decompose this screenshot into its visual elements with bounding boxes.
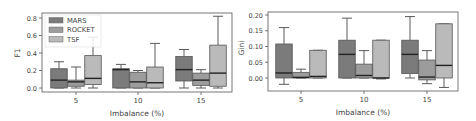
- x-tick-label: 10: [134, 97, 143, 105]
- box-mars-10: [113, 64, 130, 88]
- legend-label-tsf: TSF: [66, 36, 79, 44]
- legend-swatch-mars: [49, 18, 63, 24]
- box-iqr: [402, 40, 419, 73]
- box-iqr: [147, 67, 164, 88]
- y-axis-label: F1: [13, 48, 22, 57]
- box-iqr: [373, 40, 390, 78]
- box-iqr: [113, 69, 130, 88]
- x-axis-label: Imbalance (%): [110, 109, 164, 118]
- y-tick-label: 0.15: [249, 27, 263, 35]
- box-iqr: [436, 24, 453, 78]
- x-tick-label: 5: [74, 97, 78, 105]
- y-tick-label: 0.10: [249, 43, 263, 51]
- box-rocket-15: [193, 70, 210, 88]
- box-rocket-10: [130, 71, 147, 89]
- x-tick-label: 15: [423, 96, 432, 104]
- box-iqr: [130, 72, 147, 88]
- box-iqr: [51, 69, 68, 88]
- box-iqr: [339, 40, 356, 78]
- y-tick-label: 0.05: [249, 59, 263, 67]
- box-tsf-5: [310, 50, 327, 78]
- legend: MARSROCKETTSF: [45, 15, 101, 47]
- box-tsf-10: [373, 40, 390, 79]
- y-tick-label: 0.00: [249, 75, 263, 83]
- box-rocket-15: [419, 51, 436, 84]
- box-tsf-10: [147, 43, 164, 88]
- chart-panel-gini: 0.000.050.100.150.2051015Imbalance (%)Gi…: [237, 12, 458, 118]
- box-mars-15: [402, 17, 419, 78]
- x-axis-label: Imbalance (%): [336, 108, 390, 117]
- chart-panel-f1: 0.00.20.40.60.851015Imbalance (%)F1MARSR…: [13, 13, 232, 118]
- box-iqr: [210, 45, 227, 86]
- box-tsf-15: [436, 24, 453, 88]
- box-mars-15: [176, 50, 193, 89]
- box-rocket-10: [356, 51, 373, 78]
- legend-label-rocket: ROCKET: [67, 26, 96, 34]
- legend-label-mars: MARS: [67, 17, 87, 25]
- legend-swatch-rocket: [49, 27, 63, 33]
- box-iqr: [193, 73, 210, 85]
- box-iqr: [85, 56, 102, 85]
- y-tick-label: 0.20: [249, 12, 263, 20]
- y-tick-label: 0.2: [27, 67, 37, 75]
- legend-swatch-tsf: [49, 37, 63, 43]
- box-iqr: [68, 80, 85, 86]
- box-rocket-5: [68, 67, 85, 88]
- figure: 0.00.20.40.60.851015Imbalance (%)F1MARSR…: [0, 0, 476, 121]
- box-mars-5: [51, 62, 68, 88]
- x-tick-label: 5: [299, 96, 303, 104]
- box-iqr: [310, 50, 327, 78]
- box-mars-5: [276, 28, 293, 85]
- box-tsf-15: [210, 16, 227, 88]
- box-mars-10: [339, 18, 356, 78]
- x-tick-label: 15: [197, 97, 206, 105]
- y-tick-label: 0.0: [27, 85, 37, 93]
- box-iqr: [176, 57, 193, 82]
- box-rocket-5: [293, 69, 310, 78]
- y-tick-label: 0.8: [27, 15, 37, 23]
- y-tick-label: 0.4: [27, 50, 37, 58]
- x-tick-label: 10: [360, 96, 369, 104]
- y-axis-label: Gini: [237, 41, 246, 56]
- y-tick-label: 0.6: [27, 32, 37, 40]
